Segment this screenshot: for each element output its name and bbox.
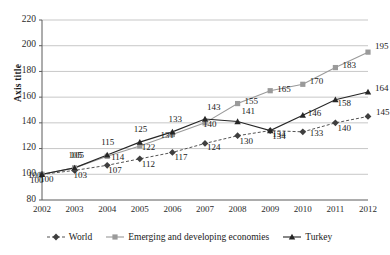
legend-marker-diamond-icon [46,232,66,242]
y-axis-tick-label: 120 [6,142,36,152]
data-label: 107 [108,165,122,175]
y-axis-tick-label: 80 [6,194,36,204]
data-label: 100 [28,170,42,180]
data-point-marker-diamond [365,113,372,120]
data-label: 122 [142,142,156,152]
x-axis-tick-label: 2012 [351,204,385,214]
data-label: 115 [101,137,114,147]
data-label: 112 [142,159,155,169]
data-label: 125 [134,124,148,134]
y-axis-tick-label: 220 [6,14,36,24]
legend-label: World [69,232,93,242]
data-point-marker-square [235,101,240,106]
legend-item-turkey[interactable]: Turkey [282,232,332,242]
data-label: 134 [272,129,286,139]
x-axis-tick-label: 2005 [123,204,157,214]
data-point-marker-square [365,50,370,55]
data-label: 103 [74,170,88,180]
data-point-marker-diamond [52,234,59,241]
legend-label: Turkey [305,232,332,242]
data-point-marker-square [333,65,338,70]
y-axis-tick-label: 180 [6,65,36,75]
x-axis-tick-label: 2010 [286,204,320,214]
x-axis-tick-label: 2006 [155,204,189,214]
data-point-marker-square [300,82,305,87]
data-point-marker-triangle [300,112,306,118]
data-label: 165 [277,84,291,94]
data-label: 141 [242,106,256,116]
data-label: 140 [203,119,217,129]
x-axis-tick-label: 2009 [253,204,287,214]
data-label: 183 [342,60,356,70]
x-axis-tick-label: 2004 [90,204,124,214]
data-label: 140 [337,123,351,133]
chart-legend: WorldEmerging and developing economiesTu… [0,232,378,242]
data-label: 170 [310,76,324,86]
data-label: 130 [240,136,254,146]
x-axis-tick-label: 2008 [221,204,255,214]
data-label: 164 [375,83,389,93]
legend-marker-triangle-icon [282,232,302,242]
data-point-marker-square [268,88,273,93]
legend-item-emerging[interactable]: Emerging and developing economies [105,232,269,242]
y-axis-tick-label: 200 [6,39,36,49]
x-axis-tick-label: 2007 [188,204,222,214]
data-label: 133 [168,114,182,124]
data-label: 143 [207,102,221,112]
data-label: 114 [111,152,124,162]
legend-label: Emerging and developing economies [128,232,269,242]
legend-marker-square-icon [105,232,125,242]
y-axis-tick-label: 140 [6,116,36,126]
x-axis-tick-label: 2002 [25,204,59,214]
x-axis-tick-label: 2011 [318,204,352,214]
data-label: 124 [207,142,221,152]
data-label: 105 [69,150,83,160]
data-point-marker-triangle [365,89,371,95]
data-label: 131 [160,130,174,140]
y-axis-tick-label: 160 [6,91,36,101]
data-point-marker-square [113,234,118,239]
data-point-marker-diamond [299,128,306,135]
data-label: 195 [375,41,389,51]
data-label: 155 [245,96,259,106]
data-label: 145 [376,107,390,117]
data-label: 146 [308,108,322,118]
data-label: 133 [310,128,324,138]
legend-item-world[interactable]: World [46,232,93,242]
x-axis-tick-label: 2003 [58,204,92,214]
data-label: 158 [337,98,351,108]
data-label: 117 [174,152,187,162]
